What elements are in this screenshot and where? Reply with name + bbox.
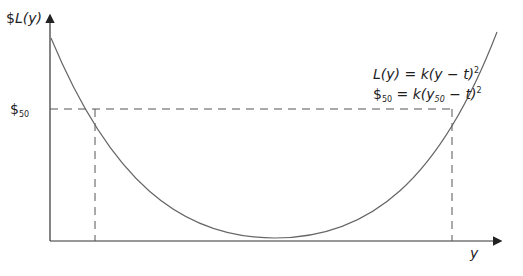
eq1-sup: 2 (474, 66, 479, 75)
eq2-lhs-sub: 50 (382, 95, 392, 104)
threshold-label: $50 (10, 102, 29, 116)
eq2-rhs-a: = k(y (397, 86, 435, 102)
loss-curve (51, 32, 497, 238)
equation-2: $50 = k(y50 − t)2 (373, 87, 481, 101)
loss-fn-label: L(y) (15, 10, 42, 26)
eq2-rhs-sub: 50 (435, 95, 445, 104)
threshold-subscript: 50 (19, 110, 29, 119)
eq2-lhs-symbol: $ (373, 86, 382, 102)
eq2-sup: 2 (476, 86, 481, 95)
loss-function-diagram (0, 0, 523, 276)
threshold-symbol: $ (10, 101, 19, 117)
dollar-sign: $ (6, 10, 15, 26)
y-axis-label: $L(y) (6, 11, 42, 25)
x-axis-label: y (470, 246, 478, 260)
equation-1: L(y) = k(y − t)2 (373, 67, 479, 81)
eq1-lhs: L(y) (373, 66, 400, 82)
eq1-rhs: = k(y − t) (404, 66, 474, 82)
eq2-rhs-b: − t) (445, 86, 477, 102)
